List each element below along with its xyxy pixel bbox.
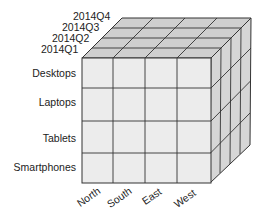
label-product-laptops: Laptops <box>0 97 76 108</box>
label-quarter-2: 2014Q2 <box>52 33 89 44</box>
label-quarter-3: 2014Q3 <box>62 22 99 33</box>
cube-front-face <box>82 58 211 183</box>
label-product-smartphones: Smartphones <box>0 162 76 173</box>
label-product-tablets: Tablets <box>0 133 76 144</box>
label-product-desktops: Desktops <box>0 68 76 79</box>
label-quarter-1: 2014Q1 <box>41 44 78 55</box>
label-quarter-4: 2014Q4 <box>73 11 110 22</box>
data-cube <box>0 0 268 223</box>
